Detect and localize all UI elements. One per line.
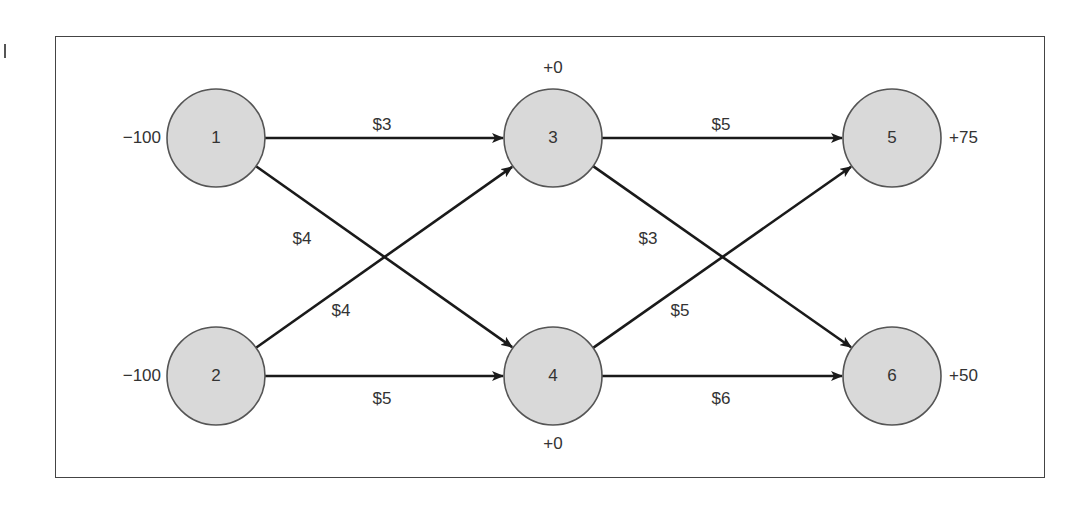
edge-cost-label: $4 [332,301,351,320]
edge-cost-label: $5 [373,389,392,408]
node-label: 5 [887,128,896,147]
node-label: 4 [548,366,557,385]
node-supply-label: +75 [949,128,978,147]
edge-cost-label: $5 [712,115,731,134]
node-supply-label: −100 [123,366,161,385]
node-4: 4+0 [504,327,602,453]
node-supply-label: −100 [123,128,161,147]
node-supply-label: +50 [949,366,978,385]
node-label: 3 [548,128,557,147]
node-2: 2−100 [123,327,265,425]
edge-cost-label: $6 [712,389,731,408]
network-diagram: $3$4$4$5$5$3$5$6 1−1002−1003+04+05+756+5… [0,0,1088,507]
node-3: 3+0 [504,58,602,187]
node-label: 1 [211,128,220,147]
node-supply-label: +0 [543,58,562,77]
edge-cost-label: $3 [639,229,658,248]
node-1: 1−100 [123,89,265,187]
edge-cost-label: $5 [671,301,690,320]
node-label: 6 [887,366,896,385]
nodes-layer: 1−1002−1003+04+05+756+50 [123,58,978,453]
edge-cost-label: $4 [293,229,312,248]
node-supply-label: +0 [543,434,562,453]
node-5: 5+75 [843,89,978,187]
node-6: 6+50 [843,327,978,425]
node-label: 2 [211,366,220,385]
edge-cost-label: $3 [373,115,392,134]
